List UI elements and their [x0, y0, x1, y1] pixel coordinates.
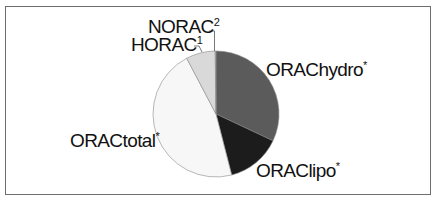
label-oractotal: ORACtotal* — [70, 131, 160, 150]
label-text: ORAChydro — [266, 59, 363, 80]
label-text: HORAC — [131, 34, 197, 55]
label-oraclipo: ORAClipo* — [256, 161, 340, 180]
label-orachydro: ORAChydro* — [266, 60, 367, 79]
label-text: ORACtotal — [70, 130, 155, 151]
label-norac: NORAC2 — [148, 17, 220, 36]
label-sup: 2 — [214, 16, 220, 28]
label-text: ORAClipo — [256, 160, 336, 181]
label-text: NORAC — [148, 16, 214, 37]
label-sup: * — [336, 160, 340, 172]
label-sup: * — [363, 59, 367, 71]
label-sup: * — [155, 130, 159, 142]
label-horac: HORAC1 — [131, 35, 203, 54]
